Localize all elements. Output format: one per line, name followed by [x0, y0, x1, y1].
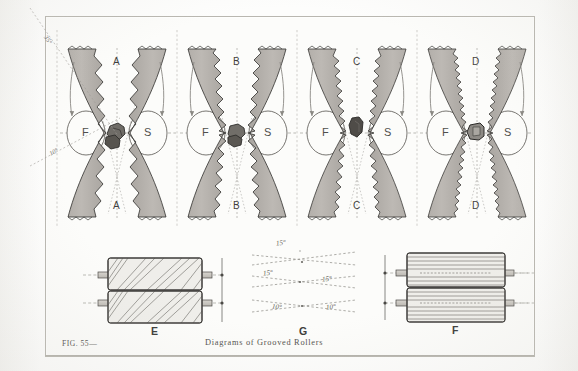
figure-number: FIG. 55— [62, 339, 97, 348]
roller-label-f-a: F [82, 126, 89, 138]
material-at-nip-a [105, 123, 125, 149]
figure-caption: Diagrams of Grooved Rollers [205, 338, 323, 347]
roller-pair-b [180, 46, 296, 220]
diagram-g [252, 250, 356, 312]
material-at-nip-d [467, 123, 484, 140]
roller-label-f-bottom: F [452, 324, 458, 336]
pair-label-a-bottom: A [113, 200, 120, 211]
roller-pair-a [60, 46, 176, 220]
roller-label-s-c: S [384, 126, 391, 138]
roller-label-f-d: F [442, 126, 449, 138]
pair-label-d-bottom: D [472, 200, 480, 211]
roller-label-e: E [151, 325, 158, 337]
roller-diagram-f [383, 253, 536, 322]
pair-label-b-bottom: B [233, 200, 240, 211]
roller-label-s-d: S [504, 126, 511, 138]
roller-label-s-b: S [264, 126, 271, 138]
material-at-nip-b [228, 124, 245, 147]
g-angle-mid-left: 15° [263, 269, 274, 278]
diagram-g-nodes [299, 261, 303, 307]
diagram-label-g: G [299, 325, 307, 337]
g-angle-mid-right: 15° [322, 275, 333, 284]
diagram-artwork [0, 0, 578, 371]
pair-label-b-top: B [233, 56, 240, 67]
figure-plate: A A B B C C D D F S F S F S F S 35° 10° … [0, 0, 578, 371]
roller-label-f-c: F [322, 126, 329, 138]
pair-label-d-top: D [472, 56, 480, 67]
pair-label-a-top: A [113, 56, 120, 67]
material-at-nip-c [349, 117, 363, 137]
roller-label-f-b: F [202, 126, 209, 138]
roller-diagram-e [83, 258, 224, 323]
pair-label-c-bottom: C [353, 200, 361, 211]
g-angle-top: 15° [276, 238, 287, 247]
pair-label-c-top: C [353, 56, 361, 67]
roller-pair-d [420, 46, 531, 220]
g-angle-low-right: 10° [326, 303, 337, 312]
g-angle-low-left: 10° [272, 303, 283, 312]
roller-pair-c [300, 46, 416, 220]
roller-label-s-a: S [144, 126, 151, 138]
